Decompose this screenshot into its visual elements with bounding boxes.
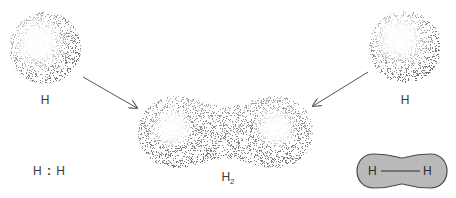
structural-left-atom: H (368, 165, 377, 177)
atom-label-right: H (401, 94, 410, 106)
lewis-electron-pair: : (47, 164, 52, 178)
hydrogen-atom-right (369, 11, 441, 83)
molecule-label-subscript: 2 (230, 177, 234, 186)
lewis-left-atom: H (33, 164, 43, 178)
molecule-label-main: H (221, 170, 230, 184)
diagram-canvas (0, 0, 456, 198)
molecule-label: H2 (221, 171, 234, 186)
atom-label-left: H (41, 94, 50, 106)
arrow-right-icon (313, 72, 368, 106)
lewis-structure: H : H (33, 165, 66, 177)
h2-molecule-cloud (138, 96, 313, 168)
lewis-right-atom: H (56, 164, 66, 178)
hydrogen-atom-left (9, 12, 81, 84)
arrow-left-icon (83, 77, 137, 108)
structural-right-atom: H (423, 165, 432, 177)
